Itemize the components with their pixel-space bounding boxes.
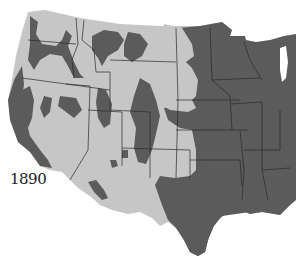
map-figure: 1890 bbox=[0, 0, 300, 260]
year-label: 1890 bbox=[10, 170, 46, 188]
region-dark-nm bbox=[122, 150, 128, 158]
us-map bbox=[0, 0, 300, 260]
region-dark-texas bbox=[172, 178, 252, 256]
